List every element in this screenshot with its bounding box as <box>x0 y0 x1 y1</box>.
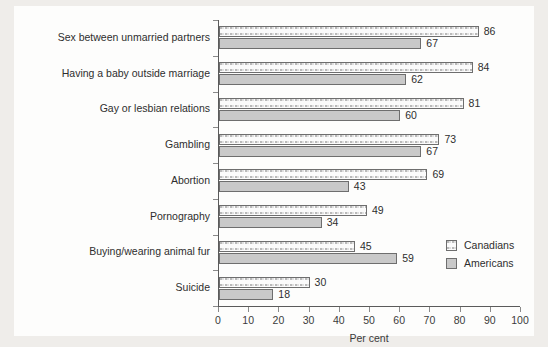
bar-value-label: 43 <box>354 180 366 192</box>
category-label: Sex between unmarried partners <box>28 31 218 43</box>
bar-value-label: 45 <box>360 240 372 252</box>
category-label: Gay or lesbian relations <box>28 102 218 114</box>
category-label: Suicide <box>28 281 218 293</box>
bar-americans <box>219 74 406 85</box>
bar-value-label: 73 <box>444 133 456 145</box>
bar-canadians <box>219 26 479 37</box>
y-axis-tick <box>213 235 218 236</box>
category-label: Abortion <box>28 174 218 186</box>
bar-value-label: 67 <box>426 145 438 157</box>
bar-value-label: 84 <box>478 61 490 73</box>
bar-value-label: 49 <box>372 204 384 216</box>
x-axis-tick-label: 100 <box>511 314 529 326</box>
x-axis-tick <box>460 307 461 312</box>
bar-value-label: 34 <box>327 216 339 228</box>
x-axis-tick-label: 20 <box>273 314 285 326</box>
x-axis-tick <box>278 307 279 312</box>
x-axis-tick-label: 30 <box>303 314 315 326</box>
category-label: Buying/wearing animal fur <box>28 245 218 257</box>
bar-canadians <box>219 98 464 109</box>
x-axis-tick <box>369 307 370 312</box>
bar-value-label: 69 <box>432 168 444 180</box>
bar-canadians <box>219 62 473 73</box>
x-axis-tick <box>309 307 310 312</box>
y-axis-tick <box>213 199 218 200</box>
legend-label-canadians: Canadians <box>464 239 514 251</box>
y-axis-tick <box>213 270 218 271</box>
y-axis-tick <box>213 20 218 21</box>
x-axis-tick <box>429 307 430 312</box>
chart-legend: Canadians Americans <box>446 236 514 272</box>
x-axis-tick-label: 40 <box>333 314 345 326</box>
x-axis-tick-label: 70 <box>424 314 436 326</box>
category-label: Gambling <box>28 138 218 150</box>
x-axis-tick <box>490 307 491 312</box>
bar-value-label: 59 <box>402 252 414 264</box>
x-axis-tick <box>218 307 219 312</box>
bar-americans <box>219 38 421 49</box>
bar-canadians <box>219 134 439 145</box>
cropped-title-text <box>164 6 424 13</box>
y-axis-tick <box>213 92 218 93</box>
category-label: Having a baby outside marriage <box>28 67 218 79</box>
bar-value-label: 18 <box>278 288 290 300</box>
x-axis-tick-label: 0 <box>215 314 221 326</box>
x-axis-tick <box>520 307 521 312</box>
y-axis-tick <box>213 127 218 128</box>
bar-value-label: 81 <box>469 97 481 109</box>
bar-canadians <box>219 277 310 288</box>
bar-canadians <box>219 241 355 252</box>
chart-card: 0102030405060708090100 86678462816073676… <box>14 6 534 336</box>
x-axis-tick-label: 50 <box>363 314 375 326</box>
bar-value-label: 86 <box>484 25 496 37</box>
x-axis-tick-label: 90 <box>484 314 496 326</box>
x-axis-tick <box>339 307 340 312</box>
x-axis-tick-label: 80 <box>454 314 466 326</box>
category-label: Pornography <box>28 210 218 222</box>
x-axis-tick-label: 10 <box>242 314 254 326</box>
bar-value-label: 62 <box>411 73 423 85</box>
bar-americans <box>219 217 322 228</box>
page-root: 0102030405060708090100 86678462816073676… <box>0 0 548 347</box>
x-axis-tick-label: 60 <box>393 314 405 326</box>
bar-americans <box>219 181 349 192</box>
x-axis-tick <box>248 307 249 312</box>
bar-value-label: 30 <box>315 276 327 288</box>
bar-canadians <box>219 169 427 180</box>
y-axis-tick <box>213 56 218 57</box>
legend-item: Americans <box>446 254 514 272</box>
bar-americans <box>219 253 397 264</box>
x-axis-title: Per cent <box>349 332 388 344</box>
legend-item: Canadians <box>446 236 514 254</box>
bar-americans <box>219 110 400 121</box>
bar-canadians <box>219 205 367 216</box>
bar-americans <box>219 289 273 300</box>
legend-swatch-canadians-icon <box>446 240 457 251</box>
legend-label-americans: Americans <box>464 257 514 269</box>
x-axis-tick <box>399 307 400 312</box>
y-axis-tick <box>213 163 218 164</box>
bar-americans <box>219 146 421 157</box>
bar-value-label: 60 <box>405 109 417 121</box>
bar-value-label: 67 <box>426 37 438 49</box>
legend-swatch-americans-icon <box>446 258 457 269</box>
